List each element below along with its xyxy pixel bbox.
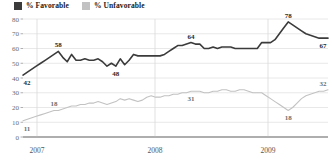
data-label: 42 bbox=[24, 79, 32, 87]
data-label: 67 bbox=[320, 42, 328, 50]
data-label: 64 bbox=[187, 33, 195, 41]
x-axis-ticks: 200720082009 bbox=[30, 146, 276, 155]
y-tick-label: 60 bbox=[12, 45, 20, 53]
data-label: 31 bbox=[187, 95, 195, 103]
legend-label-unfavorable: % Unfavorable bbox=[94, 2, 145, 10]
legend-item-favorable: % Favorable bbox=[14, 2, 69, 10]
y-tick-label: 10 bbox=[12, 119, 20, 127]
y-tick-label: 20 bbox=[12, 104, 20, 112]
y-tick-label: 0 bbox=[16, 134, 20, 142]
line-chart: % Favorable % Unfavorable 01020304050607… bbox=[0, 0, 332, 168]
plot-area: 01020304050607080 4258486478671118311832… bbox=[0, 14, 332, 168]
data-label: 18 bbox=[285, 114, 293, 122]
data-label: 78 bbox=[285, 14, 293, 20]
y-axis-ticks: 01020304050607080 bbox=[12, 16, 23, 142]
y-tick-label: 40 bbox=[12, 75, 20, 83]
legend-swatch-unfavorable bbox=[82, 2, 90, 10]
chart-legend: % Favorable % Unfavorable bbox=[14, 2, 145, 10]
data-label: 48 bbox=[112, 70, 120, 78]
data-label: 32 bbox=[320, 80, 328, 88]
x-tick-label: 2009 bbox=[261, 146, 276, 155]
chart-svg: 01020304050607080 4258486478671118311832… bbox=[0, 14, 332, 168]
y-tick-label: 80 bbox=[12, 16, 20, 24]
x-tick-label: 2007 bbox=[30, 146, 45, 155]
legend-label-favorable: % Favorable bbox=[26, 2, 69, 10]
y-tick-label: 50 bbox=[12, 60, 20, 68]
x-tick-label: 2008 bbox=[148, 146, 163, 155]
data-label: 18 bbox=[50, 100, 58, 108]
series-lines bbox=[23, 22, 328, 121]
data-label: 11 bbox=[24, 125, 31, 133]
legend-item-unfavorable: % Unfavorable bbox=[82, 2, 145, 10]
legend-swatch-favorable bbox=[14, 2, 22, 10]
series-line-unfavorable bbox=[23, 90, 328, 121]
y-tick-label: 70 bbox=[12, 30, 20, 38]
y-tick-label: 30 bbox=[12, 89, 20, 97]
y-gridlines bbox=[23, 19, 328, 137]
data-label: 58 bbox=[55, 41, 63, 49]
